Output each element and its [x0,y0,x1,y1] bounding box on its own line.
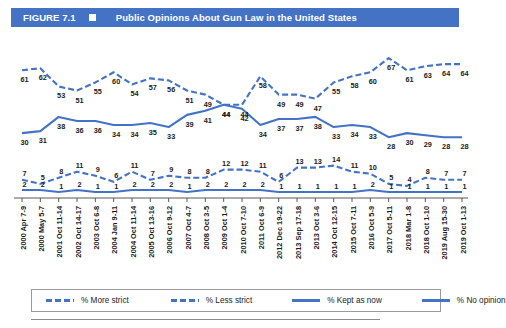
data-label: 56 [167,85,175,94]
data-label: 42 [240,114,248,123]
x-axis-tick-label: 2013 Sep 17-18 [294,206,303,259]
data-label: 31 [39,136,47,145]
data-label: 7 [462,169,466,178]
chart-legend: % More strict % Less strict % Kept as no… [31,289,441,312]
line-chart: 6162535155605457565149444458494947555860… [0,30,470,285]
x-axis-tick-label: 2004 Jan 9-11 [110,206,119,254]
data-label: 11 [76,161,84,170]
x-axis-group [14,198,468,202]
data-label: 8 [206,167,210,176]
legend-swatch-more-strict-icon [46,299,74,302]
x-axis-tick-label: 2012 Dec 19-22 [275,206,284,259]
data-label: 2 [371,180,375,189]
legend-swatch-less-strict-icon [171,299,199,302]
data-label: 1 [59,182,63,191]
x-axis-tick-label: 2011 Oct 6-9 [257,206,266,249]
data-label: 11 [259,161,267,170]
legend-label-less-strict: % Less strict [206,296,252,305]
data-label: 2 [261,180,265,189]
data-label: 35 [149,128,157,137]
data-label: 63 [424,71,432,80]
x-axis-tick-label: 2003 Oct 6-8 [92,206,101,250]
data-label: 6 [114,171,118,180]
legend-item-kept-as-now: % Kept as now [292,296,382,305]
x-axis-tick-label: 2004 Oct 11-14 [129,205,138,257]
data-label: 57 [149,83,157,92]
data-label: 34 [130,130,139,139]
data-label: 60 [112,77,120,86]
series-line-more-strict [22,58,462,105]
x-axis-tick-label: 2010 Oct 7-10 [239,206,248,254]
legend-item-more-strict: % More strict [46,296,129,305]
data-label: 30 [20,138,28,147]
data-label: 60 [369,77,377,86]
data-label: 1 [444,182,448,191]
data-label: 34 [350,130,359,139]
data-label: 49 [295,100,303,109]
legend-label-no-opinion: % No opinion [457,296,506,305]
data-label: 10 [369,163,377,172]
data-label: 1 [114,182,118,191]
data-label: 12 [240,159,248,168]
data-label: 38 [314,122,322,131]
data-label: 58 [259,81,267,90]
legend-item-less-strict: % Less strict [171,296,252,305]
data-label: 51 [75,96,83,105]
x-axis-tick-label: 2008 Oct 3-5 [202,206,211,250]
x-axis-tick-label: 2018 Mar 1-8 [404,206,413,250]
chart-plot-area: 6162535155605457565149444458494947555860… [0,30,470,285]
data-label: 38 [57,122,65,131]
data-label: 8 [187,167,191,176]
figure-number: FIGURE 7.1 [23,12,76,23]
data-label: 8 [59,167,63,176]
data-label: 34 [112,130,121,139]
data-label: 1 [407,182,411,191]
data-label: 1 [297,182,301,191]
data-label: 44 [222,110,231,119]
data-label: 1 [389,182,393,191]
data-label: 37 [277,124,285,133]
data-label: 2 [169,180,173,189]
data-label: 55 [332,87,340,96]
x-axis-tick-label: 2017 Oct 5-11 [385,206,394,253]
data-label: 1 [96,182,100,191]
data-label: 33 [332,132,340,141]
data-label: 1 [334,182,338,191]
data-label: 6 [279,171,283,180]
data-label: 2 [132,180,136,189]
data-label: 5 [389,173,393,182]
data-label: 1 [316,182,320,191]
data-label: 53 [57,91,65,100]
series-value-labels-group: 6162535155605457565149444458494947555860… [20,63,469,191]
data-label: 2 [224,180,228,189]
data-label: 1 [352,182,356,191]
data-label: 39 [185,120,193,129]
series-line-no-opinion [22,190,462,192]
data-label: 51 [185,96,193,105]
data-label: 36 [94,126,102,135]
bottom-divider [31,319,380,320]
x-axis-tick-label: 2001 Oct 11-14 [55,205,64,257]
series-paths-group [22,58,462,192]
data-label: 9 [169,165,173,174]
data-label: 61 [405,75,413,84]
x-axis-tick-labels-group: 2000 Apr 7-92000 May 5-72001 Oct 11-1420… [19,205,468,259]
data-label: 47 [314,104,322,113]
data-label: 1 [462,182,466,191]
data-label: 1 [279,182,283,191]
legend-swatch-kept-as-now-icon [292,299,320,302]
x-axis-tick-label: 2002 Oct 14-17 [74,206,83,258]
x-axis-tick-label: 2014 Oct 12-15 [330,206,339,258]
data-label: 28 [460,142,468,151]
data-label: 1 [187,182,191,191]
data-label: 54 [130,89,139,98]
x-axis-tick-label: 2019 Oct 1-13 [459,206,468,254]
x-axis-tick-label: 2015 Oct 7-11 [349,206,358,253]
data-label: 28 [442,142,450,151]
data-label: 1 [426,182,430,191]
data-label: 37 [295,124,303,133]
data-label: 2 [41,180,45,189]
data-label: 61 [20,75,28,84]
data-label: 33 [369,132,377,141]
square-marker-icon [89,14,96,21]
